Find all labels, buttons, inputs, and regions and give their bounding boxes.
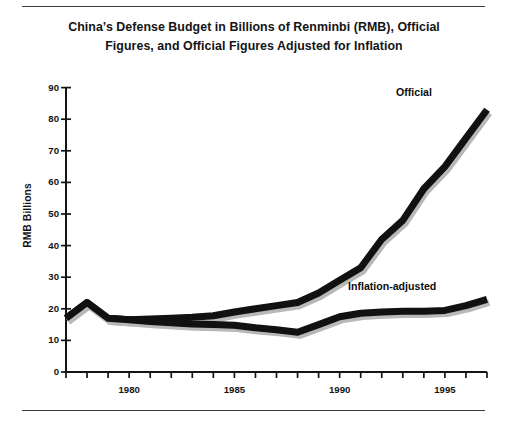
y-axis-tick-label: 30	[33, 271, 59, 282]
series-label-inflation-adjusted: Inflation-adjusted	[348, 280, 436, 292]
y-axis-tick-label: 60	[33, 176, 59, 187]
y-axis-tick-label: 10	[33, 334, 59, 345]
y-axis-tick-label: 40	[33, 240, 59, 251]
figure: China’s Defense Budget in Billions of Re…	[0, 0, 507, 425]
y-axis-title: RMB Billions	[22, 161, 33, 271]
y-axis-tick-label: 0	[33, 366, 59, 377]
x-axis-tick-label: 1995	[425, 384, 465, 395]
plot-area: RMB Billions 010203040506070809019801985…	[0, 0, 507, 425]
chart-svg	[0, 0, 507, 425]
y-axis-tick-label: 80	[33, 113, 59, 124]
x-axis-tick-label: 1980	[109, 384, 149, 395]
series-label-official: Official	[396, 86, 432, 98]
y-axis-tick-label: 90	[33, 82, 59, 93]
y-axis-tick-label: 20	[33, 303, 59, 314]
y-axis-tick-label: 50	[33, 208, 59, 219]
y-axis-tick-label: 70	[33, 145, 59, 156]
x-axis-tick-label: 1985	[214, 384, 254, 395]
x-axis-tick-label: 1990	[320, 384, 360, 395]
